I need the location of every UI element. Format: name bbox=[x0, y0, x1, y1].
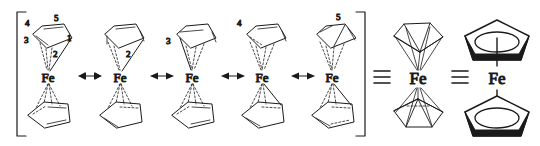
metal-label-5: Fe bbox=[326, 70, 339, 85]
metal-label-2: Fe bbox=[114, 70, 127, 85]
ring-label-4: 4 bbox=[25, 18, 30, 28]
metal-label-4: Fe bbox=[256, 70, 269, 85]
diagram-canvas: Fe 1 2 3 4 5 bbox=[0, 0, 540, 146]
ferrocene-resonance-diagram: Fe 1 2 3 4 5 bbox=[0, 0, 540, 146]
ring-label-1: 1 bbox=[67, 33, 72, 43]
metal-label-3: Fe bbox=[186, 70, 199, 85]
ring-label-5: 5 bbox=[54, 13, 59, 23]
ring-label-s5: 5 bbox=[336, 12, 341, 22]
perspective-metal-label: Fe bbox=[410, 69, 427, 88]
background bbox=[0, 0, 540, 146]
ring-label-s2: 2 bbox=[126, 49, 131, 59]
ring-label-3: 3 bbox=[24, 35, 29, 45]
ring-label-2: 2 bbox=[53, 49, 58, 59]
ring-label-s3: 3 bbox=[166, 36, 171, 46]
classic-metal-label: Fe bbox=[489, 69, 506, 88]
ring-label-s4: 4 bbox=[237, 18, 242, 28]
metal-label-1: Fe bbox=[42, 70, 55, 85]
